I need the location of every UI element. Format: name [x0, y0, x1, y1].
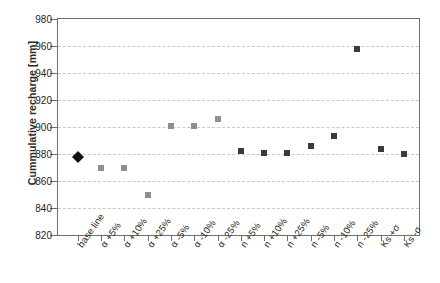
gridline: [58, 208, 419, 209]
gridline: [58, 127, 419, 128]
y-axis-tick-label: 980: [12, 14, 52, 25]
y-axis-tick-label: 900: [12, 122, 52, 133]
data-point: [121, 165, 127, 171]
plot-area: 820840860880900920940960980: [57, 18, 420, 236]
data-point: [401, 151, 407, 157]
y-axis-tick-label: 940: [12, 68, 52, 79]
data-point: [354, 46, 360, 52]
gridline: [58, 100, 419, 101]
y-axis-tick-label: 920: [12, 95, 52, 106]
data-point: [261, 150, 267, 156]
y-axis-tick-label: 820: [12, 230, 52, 241]
data-point: [284, 150, 290, 156]
recharge-sensitivity-chart: Cummulative recharge [mm] 82084086088090…: [0, 0, 440, 283]
data-point: [168, 123, 174, 129]
data-point: [98, 165, 104, 171]
data-point: [238, 148, 244, 154]
data-point: [331, 133, 337, 139]
gridline: [58, 181, 419, 182]
data-point: [378, 146, 384, 152]
data-point: [308, 143, 314, 149]
data-point: [215, 116, 221, 122]
y-axis-tick-label: 840: [12, 203, 52, 214]
y-axis-tick-label: 860: [12, 176, 52, 187]
y-axis-tick-label: 880: [12, 149, 52, 160]
data-point: [191, 123, 197, 129]
gridline: [58, 73, 419, 74]
data-point: [72, 145, 84, 157]
data-point: [145, 192, 151, 198]
gridline: [58, 46, 419, 47]
y-axis-tick-label: 960: [12, 41, 52, 52]
